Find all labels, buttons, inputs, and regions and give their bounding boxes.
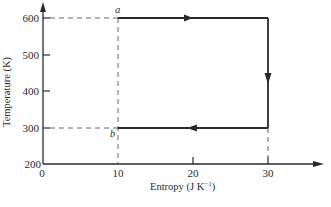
- y-axis-label: Temperature (K): [1, 56, 13, 127]
- y-ticks: [43, 18, 50, 128]
- x-axis-label: Entropy (J K−1): [150, 180, 216, 193]
- x-tick-20: 20: [188, 167, 200, 179]
- axes: [40, 2, 324, 167]
- arrow-left-icon: [187, 125, 197, 132]
- ts-diagram: 600 500 400 300 200 0 10 20 30 Entropy (…: [0, 0, 331, 207]
- y-tick-600: 600: [23, 12, 40, 24]
- y-tick-400: 400: [23, 85, 40, 97]
- x-tick-30: 30: [263, 167, 275, 179]
- x-tick-0: 0: [39, 167, 45, 179]
- point-b-label: b: [110, 128, 115, 139]
- x-tick-labels: 0 10 20 30: [39, 167, 274, 179]
- y-tick-labels: 600 500 400 300 200: [23, 12, 42, 170]
- x-tick-10: 10: [113, 167, 125, 179]
- y-tick-300: 300: [23, 122, 40, 134]
- y-axis-arrow-icon: [40, 2, 46, 12]
- guide-lines: [50, 18, 268, 164]
- point-a-label: a: [115, 4, 120, 15]
- x-ticks: [193, 157, 268, 164]
- cycle-path: [118, 18, 268, 128]
- x-axis-arrow-icon: [313, 161, 324, 167]
- arrow-right-icon: [184, 15, 193, 22]
- arrow-down-icon: [265, 73, 272, 84]
- y-tick-500: 500: [23, 49, 40, 61]
